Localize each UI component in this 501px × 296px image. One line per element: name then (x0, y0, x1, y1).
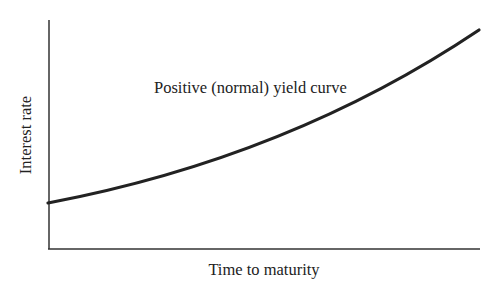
curve-annotation: Positive (normal) yield curve (154, 78, 347, 97)
yield-curve-line (48, 30, 479, 203)
y-axis-label: Interest rate (16, 96, 35, 174)
x-axis-label: Time to maturity (208, 260, 320, 279)
yield-curve-diagram: Positive (normal) yield curve Time to ma… (0, 0, 501, 296)
